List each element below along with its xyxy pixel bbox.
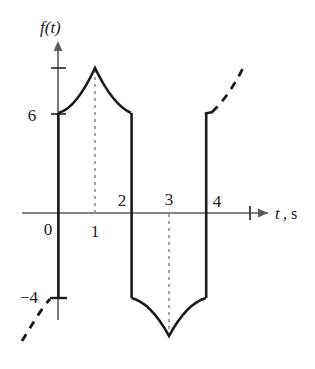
x-tick-label-4: 4 [213,192,222,211]
labels-group: f(t) t , s 6 −4 0 1 2 3 4 [20,18,297,307]
y-axis-label: f(t) [40,18,61,37]
x-axis-arrowhead [258,209,268,218]
curve-segment-2-to-4 [132,298,206,336]
y-tick-label-6: 6 [28,106,37,125]
y-axis-arrowhead [54,41,63,51]
x-tick-label-2: 2 [118,191,127,210]
dashed-continuation-right [212,68,243,112]
x-tick-label-3: 3 [165,190,174,209]
tick-marks-group [50,68,250,298]
plot-canvas: f(t) t , s 6 −4 0 1 2 3 4 [0,0,315,369]
x-axis-label-var: t [275,204,281,223]
curve-top-stub-t4 [205,112,213,114]
waveform-figure: f(t) t , s 6 −4 0 1 2 3 4 [0,0,315,369]
x-tick-label-0: 0 [44,220,53,239]
y-tick-label-minus-4: −4 [20,288,39,307]
function-curve-group [58,68,213,336]
x-tick-label-1: 1 [91,222,100,241]
x-axis-label-unit: , s [283,205,297,222]
